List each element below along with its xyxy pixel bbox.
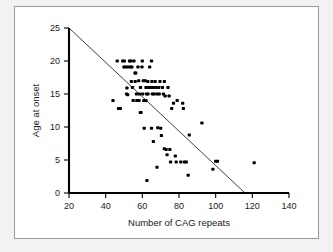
data-point (146, 80, 149, 83)
data-point (152, 140, 155, 143)
data-point (179, 160, 182, 163)
data-point (156, 126, 159, 129)
y-axis-title: Age at onset (30, 83, 41, 137)
data-point (211, 168, 214, 171)
data-point (185, 160, 188, 163)
data-point (126, 93, 129, 96)
data-point (111, 99, 114, 102)
data-point (150, 80, 153, 83)
data-point (165, 153, 168, 156)
data-point (181, 102, 184, 105)
data-point (163, 80, 166, 83)
data-point (175, 160, 178, 163)
y-tick-label: 0 (55, 188, 60, 198)
x-tick-label: 80 (174, 201, 184, 211)
y-tick-label: 25 (50, 23, 60, 33)
data-point (152, 93, 155, 96)
data-point (176, 99, 179, 102)
x-tick-label: 40 (101, 201, 111, 211)
x-axis-title: Number of CAG repeats (128, 217, 230, 228)
y-tick-label: 10 (50, 122, 60, 132)
data-point (146, 93, 149, 96)
data-point (150, 60, 153, 63)
data-point (182, 107, 185, 110)
data-point (140, 65, 143, 68)
data-point (141, 60, 144, 63)
data-point (158, 80, 161, 83)
data-point (134, 71, 137, 74)
data-point (130, 80, 133, 83)
scatter-plot-canvas: 204060801001201400510152025Number of CAG… (15, 7, 318, 238)
y-tick-label: 20 (50, 56, 60, 66)
data-point (119, 107, 122, 110)
data-point (129, 60, 132, 63)
data-point (139, 86, 142, 89)
data-point (188, 133, 191, 136)
data-point (187, 174, 190, 177)
data-point (161, 86, 164, 89)
data-point (155, 166, 158, 169)
data-point (148, 65, 151, 68)
data-point (157, 86, 160, 89)
data-point (154, 86, 157, 89)
data-point (132, 99, 135, 102)
data-point (135, 93, 138, 96)
x-tick-label: 100 (208, 201, 223, 211)
data-point (134, 80, 137, 83)
data-point (136, 65, 139, 68)
figure-frame: 204060801001201400510152025Number of CAG… (14, 6, 319, 239)
y-tick-label: 15 (50, 89, 60, 99)
data-point (169, 160, 172, 163)
data-point (130, 65, 133, 68)
data-point-group (111, 60, 255, 182)
data-point (132, 60, 135, 63)
y-tick-label: 5 (55, 155, 60, 165)
data-point (144, 99, 147, 102)
data-point (253, 161, 256, 164)
data-point (138, 93, 141, 96)
data-point (174, 155, 177, 158)
data-point (168, 94, 171, 97)
data-point (172, 102, 175, 105)
data-point (166, 86, 169, 89)
data-point (145, 179, 148, 182)
data-point (116, 60, 119, 63)
data-point (158, 93, 161, 96)
data-point (154, 80, 157, 83)
data-point (139, 111, 142, 114)
data-point (152, 86, 155, 89)
data-point (200, 122, 203, 125)
data-point (216, 160, 219, 163)
data-point (123, 60, 126, 63)
x-tick-label: 60 (137, 201, 147, 211)
data-point (165, 148, 168, 151)
data-point (141, 93, 144, 96)
data-point (170, 107, 173, 110)
data-point (150, 127, 153, 130)
x-tick-label: 140 (281, 201, 296, 211)
data-point (163, 94, 166, 97)
data-point (160, 134, 163, 137)
x-tick-label: 20 (64, 201, 74, 211)
data-point (131, 86, 134, 89)
data-point (168, 148, 171, 151)
x-tick-label: 120 (245, 201, 260, 211)
data-point (137, 79, 140, 82)
data-point (143, 127, 146, 130)
data-point (159, 127, 162, 130)
data-point (137, 99, 140, 102)
data-point (125, 87, 128, 90)
